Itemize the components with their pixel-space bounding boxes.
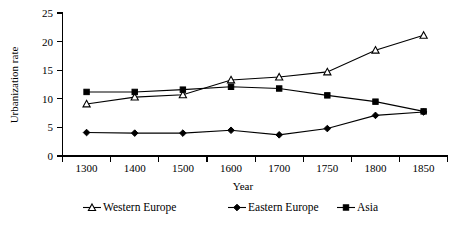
y-tick-label: 5	[48, 121, 54, 133]
chart-legend: Western EuropeEastern EuropeAsia	[83, 201, 378, 214]
data-point-marker	[324, 68, 331, 75]
y-tick-label: 25	[42, 7, 54, 19]
data-point-marker	[84, 89, 89, 94]
x-axis-tick-labels: 1300 1400 1500 1600 1700 1750 1800 1850	[76, 162, 436, 174]
x-tick-label: 1800	[365, 162, 388, 174]
x-tick-label: 1750	[316, 162, 339, 174]
legend-label: Western Europe	[103, 201, 176, 214]
legend-item[interactable]: Western Europe	[83, 201, 176, 214]
data-point-marker	[420, 32, 427, 39]
series-layer	[83, 32, 427, 138]
x-tick-label: 1700	[268, 162, 291, 174]
data-point-marker	[276, 132, 283, 139]
data-point-marker	[325, 93, 330, 98]
y-tick-label: 15	[42, 64, 54, 76]
data-point-marker	[324, 125, 331, 132]
data-point-marker	[276, 86, 281, 91]
x-axis-ticks	[63, 156, 448, 162]
data-point-marker	[83, 129, 90, 136]
data-point-marker	[180, 130, 187, 137]
x-tick-label: 1850	[413, 162, 436, 174]
legend-label: Eastern Europe	[248, 201, 319, 214]
chart-page: 25 20 15 10 5 0 1300	[0, 0, 455, 226]
series-western-europe	[83, 32, 427, 107]
y-axis-title: Urbanization rate	[8, 47, 20, 124]
data-point-marker	[132, 89, 137, 94]
x-tick-label: 1400	[124, 162, 147, 174]
legend-label: Asia	[357, 201, 378, 213]
data-point-marker	[228, 127, 235, 134]
data-point-marker	[228, 84, 233, 89]
legend-marker-icon	[343, 205, 348, 210]
line-chart: 25 20 15 10 5 0 1300	[0, 0, 455, 226]
y-tick-label: 10	[42, 93, 54, 105]
y-axis-tick-labels: 25 20 15 10 5 0	[42, 7, 54, 162]
data-point-marker	[373, 99, 378, 104]
chart-svg: 25 20 15 10 5 0 1300	[0, 0, 455, 226]
legend-marker-icon	[234, 204, 241, 211]
data-point-marker	[180, 87, 185, 92]
data-point-marker	[421, 109, 426, 114]
x-axis-title: Year	[233, 180, 254, 192]
legend-item[interactable]: Eastern Europe	[228, 201, 319, 214]
y-tick-label: 20	[42, 36, 54, 48]
data-point-marker	[372, 112, 379, 119]
legend-item[interactable]: Asia	[337, 201, 378, 213]
series-eastern-europe	[83, 109, 427, 138]
x-tick-label: 1300	[76, 162, 99, 174]
x-tick-label: 1500	[172, 162, 195, 174]
x-tick-label: 1600	[220, 162, 243, 174]
y-tick-label: 0	[48, 150, 54, 162]
y-axis-ticks	[57, 13, 63, 156]
data-point-marker	[131, 130, 138, 137]
